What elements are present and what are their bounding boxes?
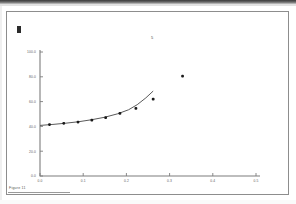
y-axis-tick-label: 60.0 <box>29 100 36 104</box>
x-axis-tick-label: 0.0 <box>37 179 42 183</box>
data-point <box>152 98 155 101</box>
data-point-group <box>48 75 184 126</box>
y-axis-tick-label: 40.0 <box>29 125 36 129</box>
data-point <box>119 112 122 115</box>
x-axis-tick-label: 0.2 <box>124 179 129 183</box>
data-point <box>135 107 138 110</box>
figure-caption: Figure 11 <box>9 186 26 190</box>
figure-caption-rule <box>8 192 70 193</box>
data-point <box>104 116 107 119</box>
x-axis-tick-label: 0.4 <box>210 179 215 183</box>
x-axis-tick-label: 0.5 <box>253 179 258 183</box>
plot-axes <box>40 50 260 176</box>
x-axis-tick-label: 0.3 <box>167 179 172 183</box>
x-axis-tick-label: 0.1 <box>81 179 86 183</box>
y-axis-tick-label: 0.0 <box>31 174 36 178</box>
data-point <box>77 121 80 124</box>
data-point <box>90 119 93 122</box>
scatter-plot-figure: 0.020.040.060.080.0100.0 0.00.10.20.30.4… <box>7 12 290 196</box>
data-point <box>181 75 184 78</box>
scan-artifact-bottom-edge <box>0 200 296 204</box>
x-axis-tick-labels: 0.00.10.20.30.40.5 <box>37 179 258 183</box>
scan-artifact-top-band-2 <box>0 4 296 6</box>
data-point <box>62 122 65 125</box>
scan-artifact-left-edge <box>0 6 2 204</box>
y-axis-tick-labels: 0.020.040.060.080.0100.0 <box>27 50 36 178</box>
plot-annotation: 5 <box>151 35 154 40</box>
plot-svg: 0.020.040.060.080.0100.0 0.00.10.20.30.4… <box>7 12 290 196</box>
y-axis-tick-label: 100.0 <box>27 50 36 54</box>
y-axis-tick-label: 20.0 <box>29 150 36 154</box>
data-point <box>48 123 51 126</box>
y-axis-tick-label: 80.0 <box>29 75 36 79</box>
scanned-page-sheet: 0.020.040.060.080.0100.0 0.00.10.20.30.4… <box>6 11 289 195</box>
